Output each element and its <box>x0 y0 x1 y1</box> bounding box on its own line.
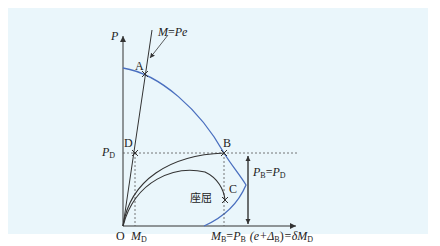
m-equals-pe-label: M=Pe <box>158 26 187 38</box>
diagram-svg <box>0 0 440 246</box>
point-d-label: D <box>124 137 133 149</box>
p-axis-label: P <box>111 30 118 42</box>
curve-o-to-b <box>123 153 224 226</box>
pb-equals-pd-label: PB=PD <box>253 166 286 180</box>
pd-label: PD <box>102 146 115 160</box>
point-b-label: B <box>223 137 231 149</box>
origin-label: O <box>116 230 125 242</box>
md-label: MD <box>131 230 147 244</box>
point-c-label: C <box>229 183 237 195</box>
buckling-label: 座屈 <box>190 193 212 204</box>
point-a-label: A <box>135 60 144 72</box>
mb-equation-label: MB=PB(e+ΔB)=δMD <box>211 230 313 244</box>
